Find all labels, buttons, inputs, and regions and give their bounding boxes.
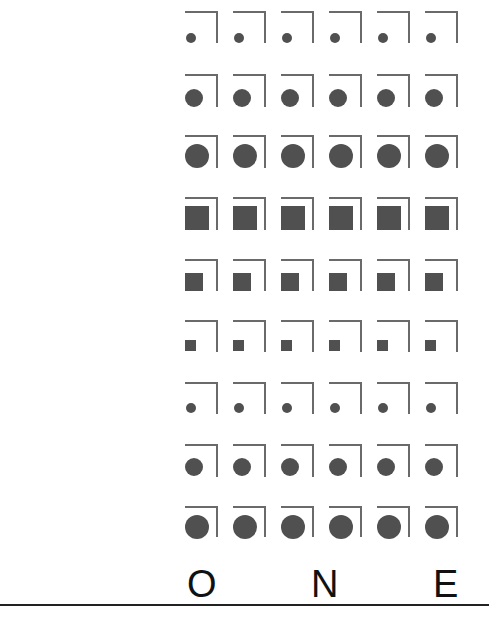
bracket-side-line	[360, 135, 362, 168]
bracket-side-line	[216, 444, 218, 477]
bracket-side-line	[216, 506, 218, 537]
bracket-side-line	[408, 259, 410, 291]
bracket-cell	[329, 444, 363, 479]
bracket-cell	[329, 320, 363, 354]
bracket-top-line	[425, 197, 458, 199]
circle-small-mark	[378, 403, 388, 413]
bracket-side-line	[312, 11, 314, 43]
bracket-cell	[281, 197, 315, 232]
circle-medium-mark	[233, 458, 251, 476]
bracket-cell	[329, 506, 363, 539]
bracket-side-line	[408, 11, 410, 43]
circle-medium-mark	[425, 458, 443, 476]
circle-large-mark	[185, 144, 209, 168]
circle-medium-mark	[425, 89, 443, 107]
bracket-top-line	[425, 382, 458, 384]
title-letter-n: N	[311, 565, 338, 603]
bracket-side-line	[312, 74, 314, 107]
bracket-top-line	[425, 259, 458, 261]
bracket-cell	[377, 382, 411, 416]
square-medium-mark	[329, 273, 347, 291]
bracket-cell	[377, 135, 411, 170]
bracket-cell	[377, 259, 411, 293]
bracket-side-line	[216, 259, 218, 291]
bracket-side-line	[408, 320, 410, 352]
circle-large-mark	[425, 144, 449, 168]
bracket-cell	[377, 197, 411, 232]
circle-small-mark	[234, 33, 244, 43]
title-letter-e: E	[433, 565, 458, 603]
bracket-cell	[281, 135, 315, 170]
bracket-cell	[425, 259, 459, 293]
bracket-cell	[185, 506, 219, 539]
bracket-cell	[233, 320, 267, 354]
square-medium-mark	[233, 273, 251, 291]
bracket-top-line	[185, 197, 218, 199]
bracket-side-line	[216, 197, 218, 230]
bracket-cell	[425, 444, 459, 479]
bracket-cell	[185, 135, 219, 170]
bracket-side-line	[216, 74, 218, 107]
bracket-side-line	[408, 382, 410, 414]
circle-large-mark	[185, 515, 209, 539]
bracket-cell	[281, 444, 315, 479]
bracket-top-line	[281, 444, 314, 446]
bracket-cell	[329, 259, 363, 293]
bracket-cell	[425, 197, 459, 232]
bracket-side-line	[360, 444, 362, 477]
bracket-cell	[233, 135, 267, 170]
bracket-top-line	[329, 506, 362, 508]
bracket-side-line	[264, 444, 266, 477]
bracket-side-line	[360, 74, 362, 107]
bracket-side-line	[312, 382, 314, 414]
bracket-cell	[425, 11, 459, 45]
bracket-side-line	[456, 135, 458, 168]
bracket-side-line	[360, 197, 362, 230]
bracket-cell	[233, 444, 267, 479]
circle-large-mark	[425, 515, 449, 539]
bracket-top-line	[329, 444, 362, 446]
bracket-side-line	[312, 320, 314, 352]
bracket-top-line	[425, 444, 458, 446]
bracket-top-line	[377, 506, 410, 508]
square-small-mark	[329, 340, 340, 351]
circle-medium-mark	[377, 89, 395, 107]
bracket-side-line	[264, 259, 266, 291]
bracket-top-line	[425, 506, 458, 508]
bracket-cell	[281, 320, 315, 354]
bracket-top-line	[233, 444, 266, 446]
bracket-side-line	[456, 382, 458, 414]
circle-medium-mark	[233, 89, 251, 107]
circle-medium-mark	[329, 89, 347, 107]
bracket-side-line	[456, 320, 458, 352]
bracket-top-line	[377, 135, 410, 137]
bracket-top-line	[281, 197, 314, 199]
bracket-cell	[377, 74, 411, 109]
square-small-mark	[377, 340, 388, 351]
bracket-top-line	[329, 197, 362, 199]
bracket-top-line	[425, 320, 458, 322]
bracket-side-line	[264, 135, 266, 168]
bracket-top-line	[329, 135, 362, 137]
bracket-side-line	[456, 197, 458, 230]
bracket-top-line	[233, 506, 266, 508]
bracket-top-line	[233, 135, 266, 137]
bracket-top-line	[185, 444, 218, 446]
square-small-mark	[281, 340, 292, 351]
bracket-top-line	[377, 11, 410, 13]
bracket-side-line	[360, 382, 362, 414]
bracket-cell	[281, 11, 315, 45]
bracket-cell	[233, 197, 267, 232]
bracket-cell	[185, 320, 219, 354]
bracket-top-line	[233, 259, 266, 261]
bracket-cell	[281, 382, 315, 416]
circle-large-mark	[329, 515, 353, 539]
bracket-side-line	[264, 506, 266, 537]
circle-large-mark	[233, 515, 257, 539]
bracket-cell	[329, 11, 363, 45]
bracket-side-line	[312, 259, 314, 291]
bracket-top-line	[281, 320, 314, 322]
bracket-side-line	[456, 506, 458, 537]
square-medium-mark	[377, 273, 395, 291]
bracket-top-line	[425, 74, 458, 76]
